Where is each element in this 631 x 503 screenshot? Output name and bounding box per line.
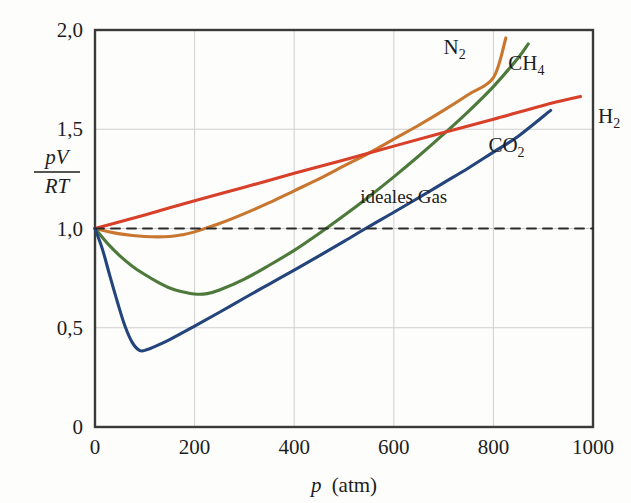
series-label-text: CH bbox=[508, 51, 537, 75]
x-tick-label: 800 bbox=[478, 435, 510, 459]
y-tick-label: 0,5 bbox=[57, 316, 83, 340]
y-tick-label: 0 bbox=[73, 415, 84, 439]
y-tick-label: 1,0 bbox=[57, 217, 83, 241]
series-label-subscript: 2 bbox=[613, 116, 620, 131]
series-label-subscript: 4 bbox=[538, 63, 545, 78]
series-label-text: CO bbox=[488, 133, 517, 157]
gas-compressibility-chart: 02004006008001000 00,51,01,52,0 N2CH4H2C… bbox=[0, 0, 631, 503]
y-tick-label: 1,5 bbox=[57, 117, 83, 141]
x-tick-label: 0 bbox=[90, 435, 101, 459]
y-axis-numerator: pV bbox=[43, 145, 71, 169]
svg-text:p (atm): p (atm) bbox=[309, 473, 377, 497]
chart-annotations: ideales Gas bbox=[360, 186, 447, 207]
y-tick-label: 2,0 bbox=[57, 18, 83, 42]
series-label-text: H bbox=[598, 104, 613, 128]
x-axis-title: p (atm) bbox=[309, 473, 377, 497]
chart-canvas: 02004006008001000 00,51,01,52,0 N2CH4H2C… bbox=[0, 0, 631, 503]
x-tick-label: 600 bbox=[378, 435, 410, 459]
series-label-subscript: 2 bbox=[459, 47, 466, 62]
x-tick-label: 1000 bbox=[572, 435, 614, 459]
y-axis-denominator: RT bbox=[44, 174, 71, 198]
series-label-text: N bbox=[444, 35, 459, 59]
annotation-ideal-gas: ideales Gas bbox=[360, 186, 447, 207]
x-tick-label: 400 bbox=[278, 435, 310, 459]
x-tick-label: 200 bbox=[179, 435, 211, 459]
x-axis-unit: (atm) bbox=[332, 473, 377, 497]
series-label-subscript: 2 bbox=[518, 145, 525, 160]
x-axis-symbol: p bbox=[309, 473, 322, 497]
